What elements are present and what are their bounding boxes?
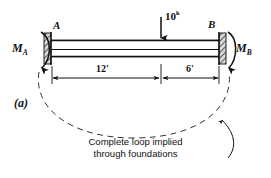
implied-loop-dashed-arc bbox=[38, 72, 229, 138]
figure-label: (a) bbox=[14, 97, 28, 109]
moment-symbol-a: M bbox=[12, 41, 23, 55]
moment-label-a: MA bbox=[12, 42, 28, 57]
fixed-support-right bbox=[219, 32, 226, 65]
caption-line-1: Complete loop implied bbox=[0, 136, 271, 148]
dimension-label-left: 12' bbox=[96, 64, 109, 74]
point-load-label: 10k bbox=[165, 10, 180, 22]
caption-line-2: through foundations bbox=[0, 148, 271, 160]
load-magnitude: 10 bbox=[165, 10, 176, 22]
beam-diagram-figure: A B MA MB 10k 12' 6' (a) Complete loop i… bbox=[0, 0, 271, 178]
moment-subscript-b: B bbox=[247, 48, 252, 57]
moment-label-b: MB bbox=[236, 42, 252, 57]
moment-subscript-a: A bbox=[23, 48, 28, 57]
load-unit-superscript: k bbox=[176, 9, 180, 16]
moment-symbol-b: M bbox=[236, 41, 247, 55]
end-moment-arc-b bbox=[228, 32, 236, 68]
dimension-label-right: 6' bbox=[186, 64, 194, 74]
node-label-a: A bbox=[53, 20, 60, 31]
caption-block: Complete loop implied through foundation… bbox=[0, 136, 271, 160]
node-label-b: B bbox=[208, 19, 215, 30]
beam-member bbox=[50, 41, 219, 57]
